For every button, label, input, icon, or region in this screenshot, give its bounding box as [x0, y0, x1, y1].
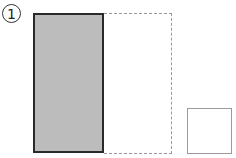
dashed-rectangle-outline — [104, 13, 172, 154]
circled-number-label: 1 — [2, 4, 21, 23]
shaded-rectangle — [33, 13, 104, 153]
small-square — [187, 108, 232, 154]
